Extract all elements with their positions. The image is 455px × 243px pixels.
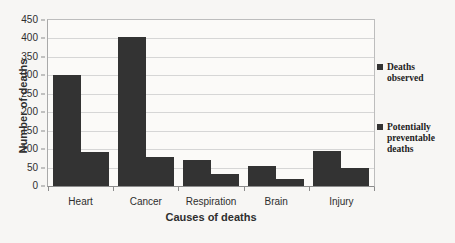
y-axis-tick-label: 150 <box>21 124 38 135</box>
bar-group <box>118 20 174 186</box>
x-axis-tick-label-heart: Heart <box>68 196 92 207</box>
y-axis-tick-label: 400 <box>21 32 38 43</box>
y-axis-tick-mark <box>41 93 45 94</box>
y-axis-tick-label: 450 <box>21 14 38 25</box>
x-axis-tick-mark <box>48 187 49 191</box>
y-axis-tick-label: 350 <box>21 50 38 61</box>
legend-item: Potentiallypreventabledeaths <box>377 122 455 155</box>
x-axis-tick-mark <box>374 187 375 191</box>
legend-swatch-deaths-observed <box>377 64 383 70</box>
bar <box>183 160 211 186</box>
legend-label-line: Potentially <box>387 122 455 133</box>
bar <box>53 75 81 186</box>
y-axis-tick-mark <box>41 112 45 113</box>
bar <box>248 166 276 186</box>
y-axis-tick-mark <box>41 20 45 21</box>
x-axis-tick-mark <box>309 187 310 191</box>
chart-legend: DeathsobservedPotentiallypreventabledeat… <box>377 0 455 243</box>
bar-series-container <box>48 20 374 186</box>
y-axis-tick-label: 50 <box>27 161 38 172</box>
y-axis-tick-label: 200 <box>21 106 38 117</box>
x-axis-tick-label-brain: Brain <box>265 196 288 207</box>
bar <box>211 174 239 186</box>
bar <box>276 179 304 186</box>
bar-group <box>53 20 109 186</box>
y-axis-tick-mark <box>41 38 45 39</box>
x-axis-tick-label-respiration: Respiration <box>186 196 237 207</box>
legend-item: Deathsobserved <box>377 62 455 84</box>
x-axis-tick-label-injury: Injury <box>329 196 353 207</box>
bar <box>341 168 369 186</box>
bar <box>313 151 341 186</box>
y-axis-tick-label: 0 <box>32 180 38 191</box>
bar-group <box>248 20 304 186</box>
y-axis-tick-label: 300 <box>21 69 38 80</box>
y-axis-tick-mark <box>41 167 45 168</box>
legend-label-line: Deaths <box>387 62 455 73</box>
bar <box>81 152 109 186</box>
legend-swatch-potentially-preventable <box>377 124 383 130</box>
bar-chart-figure: Number of deaths 05010015020025030035040… <box>0 0 455 243</box>
legend-label-line: observed <box>387 73 455 84</box>
x-axis-tick-mark <box>113 187 114 191</box>
y-axis-tick-labels: 050100150200250300350400450 <box>0 19 45 187</box>
y-axis-tick-mark <box>41 130 45 131</box>
y-axis-tick-mark <box>41 149 45 150</box>
legend-item-label: Potentiallypreventabledeaths <box>387 122 455 155</box>
x-axis-title: Causes of deaths <box>47 211 375 223</box>
legend-label-line: preventable <box>387 133 455 144</box>
bar <box>146 157 174 187</box>
legend-label-line: deaths <box>387 144 455 155</box>
y-axis-tick-mark <box>41 186 45 187</box>
legend-item-label: Deathsobserved <box>387 62 455 84</box>
bar-group <box>313 20 369 186</box>
x-axis-tick-label-cancer: Cancer <box>130 196 162 207</box>
y-axis-tick-mark <box>41 56 45 57</box>
y-axis-tick-mark <box>41 75 45 76</box>
bar <box>118 37 146 186</box>
x-axis-tick-mark <box>178 187 179 191</box>
y-axis-tick-label: 100 <box>21 143 38 154</box>
y-axis-tick-label: 250 <box>21 87 38 98</box>
x-axis-tick-mark <box>244 187 245 191</box>
bar-group <box>183 20 239 186</box>
